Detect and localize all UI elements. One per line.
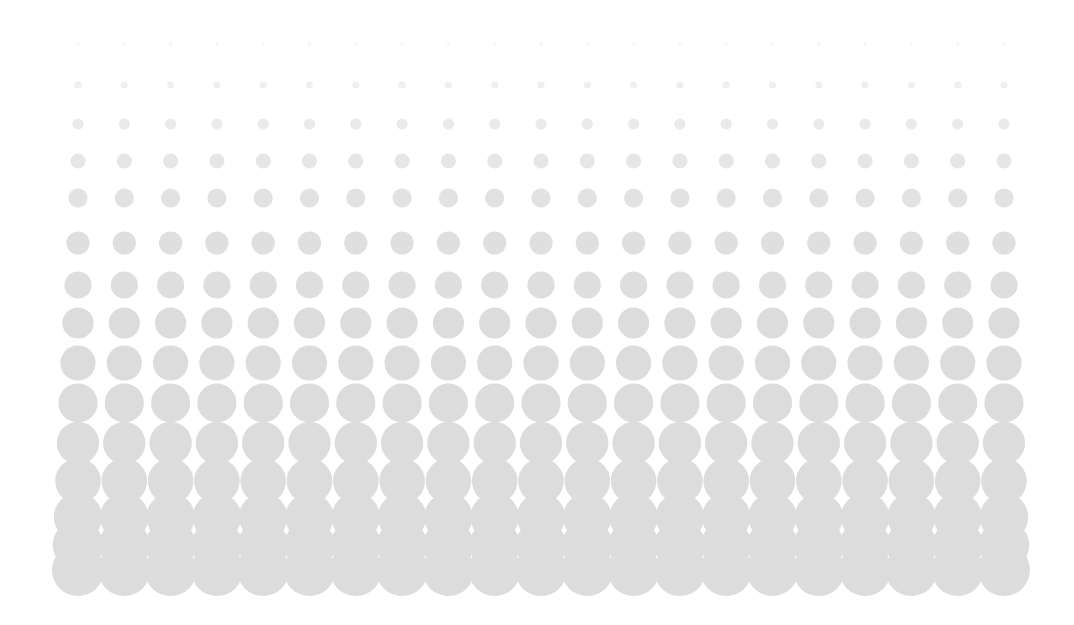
halftone-dot (906, 118, 917, 129)
halftone-dot (576, 231, 599, 254)
halftone-dot (290, 383, 329, 422)
halftone-dot (954, 81, 961, 88)
halftone-dot (447, 42, 450, 45)
halftone-dot (385, 345, 420, 380)
halftone-dot (344, 231, 367, 254)
halftone-dot (474, 422, 516, 464)
halftone-dot (902, 188, 921, 207)
halftone-dot (666, 271, 693, 298)
halftone-dot (105, 383, 144, 422)
halftone-dot (846, 383, 885, 422)
halftone-dot (304, 118, 315, 129)
halftone-dot (306, 81, 313, 88)
halftone-dot (996, 153, 1011, 168)
halftone-dot (678, 42, 681, 45)
halftone-dot (753, 383, 792, 422)
halftone-dot (618, 307, 649, 338)
halftone-dot (477, 345, 512, 380)
halftone-dot (525, 307, 556, 338)
halftone-dot (342, 271, 369, 298)
halftone-dot (561, 544, 613, 596)
halftone-dot (747, 544, 799, 596)
halftone-dot (937, 422, 979, 464)
halftone-dot (68, 188, 87, 207)
halftone-dot (64, 271, 91, 298)
halftone-dot (952, 118, 963, 129)
halftone-dot (348, 153, 363, 168)
halftone-dot (469, 544, 521, 596)
halftone-dot (523, 345, 558, 380)
halftone-dot (98, 544, 150, 596)
halftone-dot (860, 118, 871, 129)
halftone-dot (862, 81, 869, 88)
halftone-dot (898, 271, 925, 298)
halftone-dot (159, 231, 182, 254)
halftone-dot (431, 345, 466, 380)
halftone-dot (215, 42, 218, 45)
halftone-dot (715, 231, 738, 254)
halftone-dot (586, 42, 589, 45)
halftone-dot (1000, 81, 1007, 88)
halftone-dot (798, 422, 840, 464)
halftone-dot (624, 188, 643, 207)
halftone-dot (620, 271, 647, 298)
halftone-dot (700, 544, 752, 596)
halftone-dot (445, 81, 452, 88)
halftone-dot (533, 153, 548, 168)
halftone-dot (155, 307, 186, 338)
halftone-dot (427, 422, 469, 464)
halftone-dot (288, 422, 330, 464)
halftone-dot (813, 118, 824, 129)
halftone-dot (668, 231, 691, 254)
halftone-dot (58, 383, 97, 422)
halftone-dot (713, 271, 740, 298)
halftone-dot (256, 153, 271, 168)
halftone-dot (580, 153, 595, 168)
halftone-dot (578, 188, 597, 207)
halftone-dot (153, 345, 188, 380)
halftone-dot (439, 188, 458, 207)
halftone-dot (608, 544, 660, 596)
halftone-dot (572, 307, 603, 338)
halftone-dot (632, 42, 635, 45)
halftone-dot (254, 188, 273, 207)
halftone-dot (242, 422, 284, 464)
halftone-dot (296, 271, 323, 298)
halftone-dot (237, 544, 289, 596)
halftone-dot (763, 188, 782, 207)
halftone-dot (391, 231, 414, 254)
halftone-dot (978, 544, 1030, 596)
halftone-dot (662, 345, 697, 380)
halftone-dot (529, 231, 552, 254)
halftone-dot (401, 42, 404, 45)
halftone-dot (568, 383, 607, 422)
halftone-dot (998, 118, 1009, 129)
halftone-dot (986, 345, 1021, 380)
halftone-dot (948, 188, 967, 207)
halftone-dot (896, 307, 927, 338)
halftone-dot (62, 307, 93, 338)
halftone-dot (723, 81, 730, 88)
halftone-dot (57, 422, 99, 464)
halftone-dot (336, 383, 375, 422)
halftone-dot (721, 118, 732, 129)
halftone-dot (676, 81, 683, 88)
halftone-dot (252, 231, 275, 254)
halftone-dot (151, 383, 190, 422)
halftone-dot (910, 42, 913, 45)
halftone-dot (475, 383, 514, 422)
halftone-dot (169, 42, 172, 45)
halftone-dot (443, 118, 454, 129)
halftone-dot (346, 188, 365, 207)
halftone-dot (616, 345, 651, 380)
halftone-dot (300, 188, 319, 207)
halftone-dot (485, 188, 504, 207)
halftone-dot (308, 42, 311, 45)
halftone-dot (294, 307, 325, 338)
halftone-dot (570, 345, 605, 380)
halftone-dot (352, 81, 359, 88)
halftone-dot (527, 271, 554, 298)
halftone-dot (854, 231, 877, 254)
halftone-dot (493, 42, 496, 45)
halftone-dot (1002, 42, 1005, 45)
